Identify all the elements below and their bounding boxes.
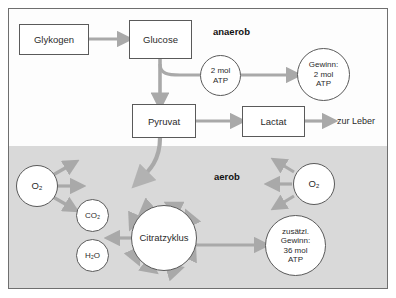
arrow-o2-left-down	[53, 197, 74, 209]
zusatz-line-2: Gewinn:	[281, 236, 310, 245]
node-atp-2mol[interactable]: 2 mol ATP	[200, 55, 241, 96]
arrow-o2-left-up	[53, 163, 74, 175]
zusatz-line-4: ATP	[288, 255, 303, 264]
anaerob-label: anaerob	[213, 26, 250, 37]
zur-leber-label: zur Leber	[337, 116, 375, 126]
arrow-glucose-to-atp-branch	[160, 64, 200, 75]
node-zusaetzlicher-gewinn[interactable]: zusätzl. Gewinn: 36 mol ATP	[265, 215, 326, 276]
node-lactat[interactable]: Lactat	[242, 106, 305, 137]
diagram-canvas: Glykogen Glucose Pyruvat Lactat 2 mol AT…	[0, 0, 396, 298]
gewinn-line-2: 2 mol	[314, 70, 334, 79]
arrow-o2-right-up	[276, 161, 294, 172]
water-label: H₂O	[85, 251, 100, 260]
atp-2mol-line-2: ATP	[213, 76, 228, 85]
oxygen-right-label: O₂	[308, 178, 319, 189]
node-glykogen[interactable]: Glykogen	[19, 24, 89, 55]
node-pyruvat-label: Pyruvat	[148, 116, 180, 127]
citratzyklus-label: Citratzyklus	[139, 232, 188, 243]
aerob-label: aerob	[214, 171, 240, 182]
node-water[interactable]: H₂O	[76, 239, 109, 272]
node-lactat-label: Lactat	[261, 116, 287, 127]
node-glykogen-label: Glykogen	[34, 34, 74, 45]
zusatz-line-3: 36 mol	[283, 246, 307, 255]
arrow-pyruvat-to-citratzyklus	[138, 138, 160, 182]
oxygen-left-label: O₂	[31, 180, 42, 191]
node-pyruvat[interactable]: Pyruvat	[132, 104, 196, 138]
node-carbon-dioxide[interactable]: CO₂	[76, 199, 109, 232]
node-glucose-label: Glucose	[143, 34, 178, 45]
node-oxygen-left[interactable]: O₂	[16, 165, 58, 207]
node-gewinn-2mol-atp[interactable]: Gewinn: 2 mol ATP	[297, 48, 350, 101]
node-citratzyklus[interactable]: Citratzyklus	[131, 205, 197, 271]
carbon-dioxide-label: CO₂	[85, 211, 100, 220]
gewinn-line-3: ATP	[316, 79, 331, 88]
arrow-o2-right-down	[276, 196, 294, 207]
gewinn-line-1: Gewinn:	[309, 60, 338, 69]
zusatz-line-1: zusätzl.	[282, 227, 309, 236]
node-glucose[interactable]: Glucose	[129, 20, 192, 59]
atp-2mol-line-1: 2 mol	[211, 66, 231, 75]
node-oxygen-right[interactable]: O₂	[293, 163, 335, 205]
